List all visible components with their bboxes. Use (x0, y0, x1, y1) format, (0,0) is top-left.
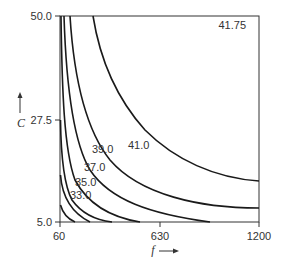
contour-label-39: 39.0 (92, 143, 113, 155)
x-tick-label: 60 (53, 230, 65, 242)
y-tick-label: 27.5 (31, 114, 52, 126)
contour-chart: 50.0 27.5 5.0 60 630 1200 C f 41.0 39.0 … (0, 0, 281, 267)
y-axis-label: C (17, 116, 26, 130)
contour-label-33: 33.0 (70, 189, 91, 201)
max-region-label: 41.75 (218, 19, 246, 31)
x-axis-label: f (151, 243, 156, 257)
contour-label-37: 37.0 (84, 161, 105, 173)
x-tick-label: 630 (151, 230, 169, 242)
y-tick-label: 5.0 (37, 216, 52, 228)
contour-label-41: 41.0 (128, 139, 149, 151)
contour-label-35: 35.0 (75, 176, 96, 188)
contour-39 (70, 16, 259, 208)
y-tick-label: 50.0 (31, 10, 52, 22)
contour-41 (93, 16, 259, 181)
x-tick-label: 1200 (247, 230, 271, 242)
y-axis-arrowhead-icon (18, 92, 23, 98)
x-axis-arrowhead-icon (173, 249, 179, 254)
